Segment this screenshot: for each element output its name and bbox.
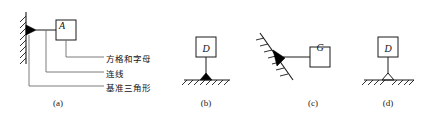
panel-c-graphic	[255, 28, 345, 98]
panel-a-graphic	[8, 6, 188, 106]
callout-label-box-letter: 方格和字母	[106, 52, 151, 64]
callout-label-connecting-line: 连线	[106, 67, 124, 79]
datum-letter-a: A	[52, 20, 72, 31]
panel-d-caption: (d)	[368, 98, 408, 108]
datum-triangle-b	[200, 73, 212, 80]
datum-triangle-d	[382, 73, 394, 80]
panel-b-caption: (b)	[186, 98, 226, 108]
callout-label-datum-triangle: 基准三角形	[106, 81, 151, 93]
callout-leader-datum-triangle	[29, 35, 104, 86]
panel-c-caption: (c)	[293, 98, 333, 108]
wall-hatching-a	[20, 16, 26, 64]
datum-letter-d: D	[378, 43, 398, 54]
panel-a-caption: (a)	[38, 98, 78, 108]
ground-hatching-d	[362, 80, 414, 85]
ground-hatching-b	[182, 80, 229, 85]
datum-letter-c: G	[310, 42, 330, 53]
datum-letter-b: D	[196, 43, 216, 54]
figure-root: A 方格和字母 连线 基准三角形 (a) D (b)	[0, 0, 438, 125]
callout-leader-box-letter	[66, 40, 104, 57]
datum-triangle-a	[26, 25, 36, 35]
